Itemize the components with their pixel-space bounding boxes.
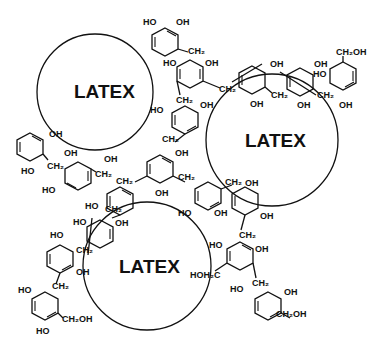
svg-text:OH: OH <box>250 99 264 109</box>
svg-text:OH: OH <box>270 59 284 69</box>
latex-label-2: LATEX <box>245 130 306 151</box>
svg-text:HO: HO <box>85 201 99 211</box>
svg-text:CH₂: CH₂ <box>188 46 205 56</box>
svg-text:CH₂: CH₂ <box>116 176 133 186</box>
svg-text:CH₂OH: CH₂OH <box>62 314 93 324</box>
svg-text:CH₂: CH₂ <box>47 161 64 171</box>
svg-text:OH: OH <box>205 58 219 68</box>
svg-text:CH₂: CH₂ <box>225 177 242 187</box>
svg-text:HO: HO <box>36 326 50 336</box>
svg-text:HO: HO <box>21 166 35 176</box>
svg-text:OH: OH <box>255 244 269 254</box>
svg-text:OH: OH <box>115 218 129 228</box>
svg-text:OH: OH <box>260 211 274 221</box>
svg-text:OH: OH <box>284 287 298 297</box>
svg-text:HO: HO <box>150 105 164 115</box>
svg-text:OH: OH <box>49 129 63 139</box>
svg-text:OH: OH <box>297 100 311 110</box>
svg-text:CH₂: CH₂ <box>178 172 195 182</box>
svg-text:CH₂: CH₂ <box>52 281 69 291</box>
latex-label-3: LATEX <box>119 256 180 277</box>
svg-text:OH: OH <box>214 208 228 218</box>
ring-far-right: CH₂OH HO OH <box>313 47 367 110</box>
resin-latex-structure: LATEX LATEX LATEX HO OH CH₂ HO OH CH₂ CH… <box>0 0 382 354</box>
svg-text:CH₂: CH₂ <box>95 169 112 179</box>
ring-top: HO OH <box>143 17 190 56</box>
svg-text:HO: HO <box>209 240 223 250</box>
svg-text:OH: OH <box>104 154 118 164</box>
ring-right-center: HO OH <box>178 182 232 218</box>
svg-text:HO: HO <box>50 230 64 240</box>
ring-3: HO OH <box>150 100 214 142</box>
svg-text:HO: HO <box>143 17 157 27</box>
svg-text:CH₂: CH₂ <box>105 204 122 214</box>
svg-text:HO: HO <box>163 58 177 68</box>
svg-text:CH₂: CH₂ <box>317 90 334 100</box>
svg-text:HOH₂C: HOH₂C <box>190 270 221 280</box>
svg-text:HO: HO <box>230 284 244 294</box>
svg-text:HO: HO <box>313 69 327 79</box>
latex-label-1: LATEX <box>74 81 135 102</box>
svg-text:CH₂OH: CH₂OH <box>336 47 367 57</box>
svg-text:CH₂: CH₂ <box>271 90 288 100</box>
svg-text:CH₂: CH₂ <box>252 278 269 288</box>
svg-text:OH: OH <box>245 178 259 188</box>
svg-text:OH: OH <box>76 267 90 277</box>
svg-text:OH: OH <box>314 59 328 69</box>
svg-text:HO: HO <box>18 285 32 295</box>
ring-upper-right-1: OH OH <box>232 59 284 109</box>
svg-text:CH₂: CH₂ <box>239 230 256 240</box>
svg-text:HO: HO <box>178 208 192 218</box>
svg-text:CH₂OH: CH₂OH <box>276 309 307 319</box>
svg-text:CH₂: CH₂ <box>162 134 179 144</box>
svg-text:OH: OH <box>155 188 169 198</box>
svg-text:OH: OH <box>200 100 214 110</box>
svg-text:CH₂: CH₂ <box>219 84 236 94</box>
diagram-stage: LATEX LATEX LATEX HO OH CH₂ HO OH CH₂ CH… <box>0 0 382 354</box>
svg-text:HO: HO <box>73 217 87 227</box>
svg-text:OH: OH <box>176 17 190 27</box>
ring-upper-right-2: OH OH <box>280 59 328 110</box>
ring-bottom-left: HO HO <box>18 285 63 336</box>
ring-2: HO OH <box>163 58 220 95</box>
svg-text:HO: HO <box>42 185 56 195</box>
ring-left-2: OH HO <box>42 148 96 195</box>
svg-text:OH: OH <box>339 100 353 110</box>
svg-text:CH₂: CH₂ <box>176 95 193 105</box>
svg-text:CH₂: CH₂ <box>76 245 93 255</box>
svg-text:OH: OH <box>175 148 189 158</box>
svg-text:OH: OH <box>64 148 78 158</box>
